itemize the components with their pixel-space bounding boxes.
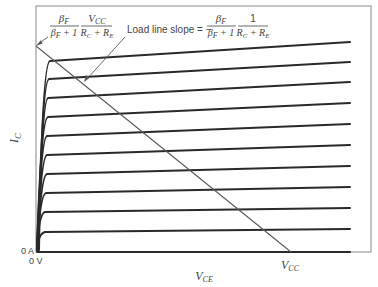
svg-text:Load line slope = −: Load line slope = − bbox=[127, 24, 212, 35]
svg-text:βF + 1: βF + 1 bbox=[50, 27, 78, 40]
curve-ib-3 bbox=[37, 187, 350, 250]
svg-text:1: 1 bbox=[250, 13, 256, 24]
svg-text:RC + RE: RC + RE bbox=[236, 27, 271, 40]
svg-text:βF + 1: βF + 1 bbox=[207, 27, 235, 40]
y-intercept-label: βF βF + 1 VCC RC + RE bbox=[50, 12, 114, 40]
curve-ib-1 bbox=[37, 229, 350, 250]
characteristic-curves bbox=[37, 42, 350, 252]
svg-text:βF: βF bbox=[58, 12, 69, 26]
load-line-slope-label: Load line slope = − βF βF + 1 1 RC + RE bbox=[127, 12, 270, 40]
curve-ib-5 bbox=[37, 145, 350, 250]
svg-text:IC: IC bbox=[7, 132, 23, 144]
curve-ib-8 bbox=[38, 82, 350, 250]
y-origin-label: 0 A bbox=[21, 246, 34, 256]
x-axis-label: VCE bbox=[195, 269, 213, 284]
intercept-arrowhead-icon bbox=[36, 40, 43, 46]
vcc-label: VCC bbox=[281, 258, 300, 273]
svg-text:VCC: VCC bbox=[88, 12, 106, 26]
svg-text:βF: βF bbox=[215, 12, 226, 26]
bjt-characteristics-diagram: βF βF + 1 VCC RC + RE Load line slope = … bbox=[0, 0, 378, 287]
x-origin-label: 0 V bbox=[29, 256, 43, 266]
y-axis-label: IC bbox=[7, 132, 23, 144]
svg-text:RC + RE: RC + RE bbox=[80, 27, 115, 40]
